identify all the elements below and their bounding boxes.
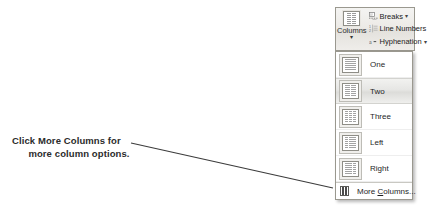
menu-item-one[interactable]: One: [336, 52, 412, 78]
columns-split-button[interactable]: Columns ▾: [337, 9, 367, 49]
columns-icon: [343, 11, 360, 26]
callout-line-1: Click More Columns for: [12, 134, 138, 147]
menu-item-label: Three: [370, 112, 391, 121]
columns-preview-icon: [342, 57, 359, 73]
menu-item-label: Two: [370, 87, 385, 96]
callout-line-2: more column options.: [12, 147, 138, 160]
callout-caption: Click More Columns for more column optio…: [12, 134, 138, 160]
line-numbers-button[interactable]: 1 2 Line Numbers: [369, 23, 427, 35]
hyphenation-label: Hyphenation: [380, 37, 422, 46]
page-setup-ribbon-group: Columns ▾ Breaks ▾ 1 2: [335, 7, 415, 51]
menu-item-label: Left: [370, 138, 383, 147]
chevron-down-icon[interactable]: ▾: [424, 39, 427, 45]
more-columns-suffix: olumns...: [383, 187, 415, 196]
columns-preview-icon: [342, 161, 359, 177]
columns-preview-icon: [342, 83, 359, 99]
breaks-label: Breaks: [380, 12, 403, 21]
menu-item-label: One: [370, 60, 385, 69]
hyphenation-icon: a: [369, 37, 378, 46]
columns-dropdown-menu: One Two Three Left Right More Columns...: [335, 51, 413, 200]
menu-item-three[interactable]: Three: [336, 104, 412, 130]
more-columns-label: More Columns...: [357, 187, 416, 196]
chevron-down-icon[interactable]: ▾: [350, 35, 353, 40]
more-columns-icon: [340, 186, 349, 196]
menu-item-left[interactable]: Left: [336, 130, 412, 156]
columns-preview-icon: [342, 109, 359, 125]
more-columns-prefix: More: [357, 187, 377, 196]
line-numbers-icon: 1 2: [369, 24, 378, 33]
chevron-down-icon[interactable]: ▾: [405, 13, 408, 19]
menu-item-two[interactable]: Two: [336, 78, 412, 104]
breaks-button[interactable]: Breaks ▾: [369, 10, 427, 22]
line-numbers-label: Line Numbers: [380, 24, 427, 33]
columns-preview-icon: [342, 135, 359, 151]
menu-item-right[interactable]: Right: [336, 156, 412, 182]
svg-text:2: 2: [369, 29, 371, 33]
menu-item-more-columns[interactable]: More Columns...: [336, 183, 412, 199]
svg-text:a: a: [369, 39, 372, 45]
hyphenation-button[interactable]: a Hyphenation ▾: [369, 36, 427, 48]
page-break-icon: [369, 12, 378, 21]
ribbon-command-list: Breaks ▾ 1 2 Line Numbers a Hyphe: [367, 9, 427, 49]
menu-item-label: Right: [370, 164, 389, 173]
